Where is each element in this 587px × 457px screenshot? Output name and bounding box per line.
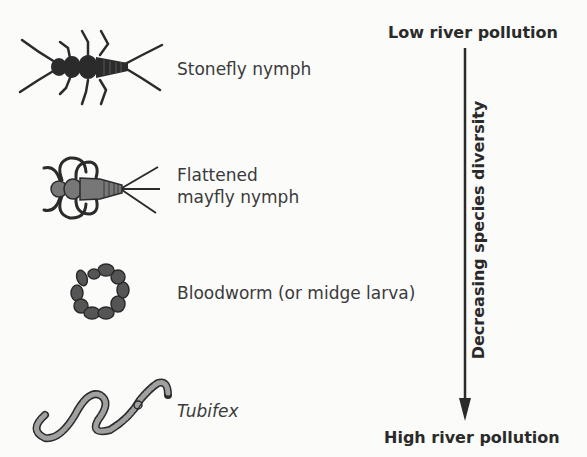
mayfly-nymph-icon — [35, 150, 165, 230]
scale-bottom-label: High river pollution — [384, 428, 560, 447]
tubifex-icon — [25, 360, 175, 445]
organism-label-bloodworm: Bloodworm (or midge larva) — [177, 282, 415, 304]
organism-label-mayfly: Flattened mayfly nymph — [177, 164, 299, 208]
organism-label-stonefly: Stonefly nymph — [177, 58, 311, 80]
organism-label-tubifex: Tubifex — [177, 400, 238, 422]
scale-axis-label: Decreasing species diversity — [469, 101, 488, 360]
stonefly-nymph-icon — [15, 25, 165, 115]
scale-top-label: Low river pollution — [388, 23, 558, 42]
bloodworm-icon — [65, 255, 140, 330]
